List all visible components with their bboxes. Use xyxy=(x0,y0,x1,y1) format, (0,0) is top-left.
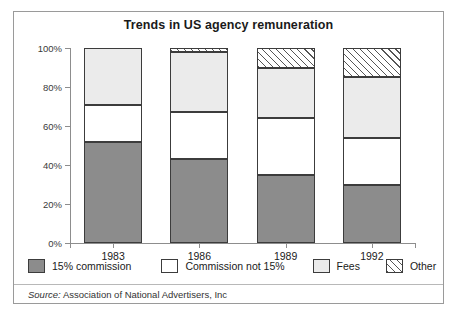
legend-item: Commission not 15% xyxy=(161,259,284,273)
stacked-bar xyxy=(257,48,315,243)
y-tick xyxy=(65,48,70,49)
y-tick-label: 40% xyxy=(43,160,62,171)
plot-area: 0%20%40%60%80%100% 1983198619891992 xyxy=(70,48,415,243)
legend-item: Fees xyxy=(313,259,360,273)
legend-label: Commission not 15% xyxy=(185,260,284,272)
bar-segment xyxy=(343,48,401,77)
y-tick-label: 60% xyxy=(43,121,62,132)
y-tick-label: 80% xyxy=(43,82,62,93)
y-tick-label: 100% xyxy=(38,43,62,54)
bar-segment xyxy=(343,185,401,244)
bar-segment xyxy=(343,138,401,185)
y-tick xyxy=(65,87,70,88)
hatched-swatch xyxy=(386,259,403,273)
bar-segment xyxy=(257,118,315,175)
white-swatch xyxy=(161,259,178,273)
x-tick xyxy=(372,243,373,248)
footer-divider xyxy=(14,284,443,285)
chart-legend: 15% commissionCommission not 15%FeesOthe… xyxy=(28,256,432,276)
bar-segment xyxy=(170,112,228,159)
legend-item: 15% commission xyxy=(28,259,131,273)
bar-segment xyxy=(170,52,228,112)
bar-segment xyxy=(257,68,315,119)
x-tick xyxy=(286,243,287,248)
source-note: Source: Association of National Advertis… xyxy=(28,289,227,300)
chart-figure: Trends in US agency remuneration 0%20%40… xyxy=(13,11,444,304)
stacked-bar xyxy=(343,48,401,243)
bar-segment xyxy=(84,48,142,105)
stacked-bar xyxy=(84,48,142,243)
x-tick xyxy=(113,243,114,248)
y-axis-line xyxy=(70,48,71,244)
source-label: Source: xyxy=(28,289,61,300)
x-tick xyxy=(199,243,200,248)
bar-segment xyxy=(84,105,142,142)
y-tick xyxy=(65,165,70,166)
x-tick xyxy=(415,243,416,248)
legend-label: Fees xyxy=(337,260,360,272)
legend-label: 15% commission xyxy=(52,260,131,272)
bar-segment xyxy=(257,48,315,68)
legend-item: Other xyxy=(386,259,436,273)
y-tick xyxy=(65,126,70,127)
bar-segment xyxy=(257,175,315,243)
y-tick-label: 20% xyxy=(43,199,62,210)
bar-segment xyxy=(170,159,228,243)
bar-segment xyxy=(84,142,142,243)
dark-gray-swatch xyxy=(28,259,45,273)
bar-segment xyxy=(170,48,228,52)
x-tick xyxy=(70,243,71,248)
x-axis-line xyxy=(70,243,415,244)
chart-title: Trends in US agency remuneration xyxy=(14,18,443,32)
y-tick xyxy=(65,204,70,205)
stacked-bar xyxy=(170,48,228,243)
light-gray-swatch xyxy=(313,259,330,273)
legend-label: Other xyxy=(410,260,436,272)
bar-segment xyxy=(343,77,401,137)
y-tick-label: 0% xyxy=(48,238,62,249)
source-value: Association of National Advertisers, Inc xyxy=(63,289,227,300)
